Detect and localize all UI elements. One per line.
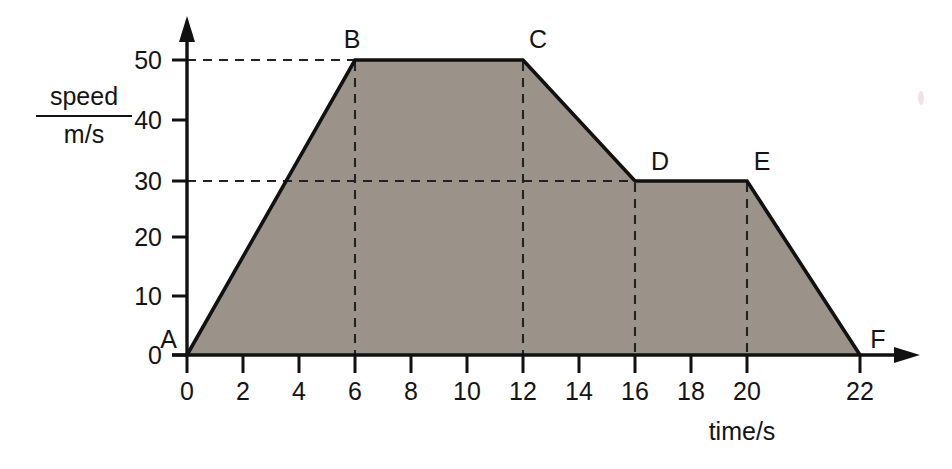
x-tick-label-20: 20 [733, 377, 761, 405]
point-label-c: C [529, 25, 547, 53]
y-tick-label-10: 10 [134, 282, 162, 310]
x-tick-label-6: 6 [348, 377, 362, 405]
scan-artifact-speck [918, 91, 924, 105]
x-tick-label-8: 8 [404, 377, 418, 405]
point-label-f: F [870, 325, 885, 353]
x-tick-label-10: 10 [453, 377, 481, 405]
x-tick-label-4: 4 [292, 377, 306, 405]
x-tick-label-0: 0 [180, 377, 194, 405]
x-axis-arrowhead [894, 347, 920, 363]
y-tick-label-20: 20 [134, 223, 162, 251]
point-label-d: D [651, 147, 669, 175]
x-tick-label-18: 18 [677, 377, 705, 405]
x-tick-label-12: 12 [509, 377, 537, 405]
point-label-b: B [344, 25, 361, 53]
x-tick-label-14: 14 [565, 377, 593, 405]
speed-time-graph-figure: 50 40 30 20 10 0 0 2 4 6 8 10 12 14 16 1… [0, 0, 952, 469]
y-tick-label-30: 30 [134, 167, 162, 195]
y-axis-arrowhead [179, 16, 195, 42]
graph-canvas: 50 40 30 20 10 0 0 2 4 6 8 10 12 14 16 1… [0, 0, 952, 469]
y-axis-title-numerator: speed [50, 82, 118, 110]
point-label-a: A [160, 325, 177, 353]
x-tick-label-22: 22 [846, 377, 874, 405]
y-tick-label-40: 40 [134, 106, 162, 134]
y-tick-label-50: 50 [134, 46, 162, 74]
x-axis-title: time/s [709, 417, 776, 445]
x-tick-label-2: 2 [236, 377, 250, 405]
point-label-e: E [754, 147, 771, 175]
x-tick-label-16: 16 [621, 377, 649, 405]
y-axis-title-denominator: m/s [64, 120, 104, 148]
